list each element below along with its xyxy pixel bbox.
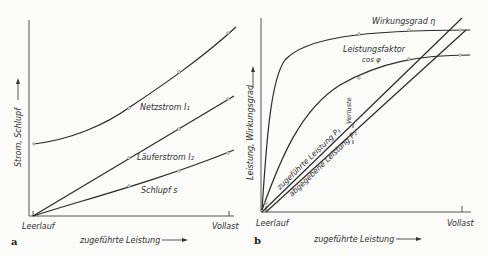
panel-a-x-arrow-head [182,238,188,242]
motor-characteristics-figure: Netzstrom I₁ Läuferstrom I₂ Schlupf s St… [0,0,488,256]
netzstrom-curve [33,27,236,144]
panel-b-y-label: Leistung, Wirkungsgrad [246,84,255,180]
panel-a-letter: a [11,236,18,247]
panel-a-x-label: zugeführte Leistung [79,236,160,245]
panel-a-y-label: Strom, Schlupf [14,107,23,167]
laeuferstrom-curve [33,96,234,216]
panel-a-leerlauf: Leerlauf [22,222,56,231]
wirkungsgrad-label: Wirkungsgrad η [372,17,435,26]
cosphi-label: cos φ [362,56,381,64]
panel-b-y-arrow-head [251,66,255,72]
panel-b-vollast: Vollast [447,219,474,228]
schlupf-label: Schlupf s [141,186,177,195]
panel-b: Wirkungsgrad η Leistungsfaktor cos φ zug… [246,17,474,246]
panel-b-letter: b [254,235,261,246]
panel-b-leerlauf: Leerlauf [256,219,290,228]
schlupf-curve [33,150,234,216]
leistungsfaktor-label: Leistungsfaktor [343,45,406,54]
panel-b-x-label: zugeführte Leistung [313,235,394,244]
netzstrom-label: Netzstrom I₁ [140,103,190,112]
panel-a-y-arrow-head [16,78,20,84]
verluste-label: Verluste [345,97,353,124]
panel-b-x-arrow-head [416,237,422,241]
panel-a: Netzstrom I₁ Läuferstrom I₂ Schlupf s St… [11,20,239,247]
panel-a-vollast: Vollast [212,222,239,231]
laeuferstrom-label: Läuferstrom I₂ [137,153,195,162]
